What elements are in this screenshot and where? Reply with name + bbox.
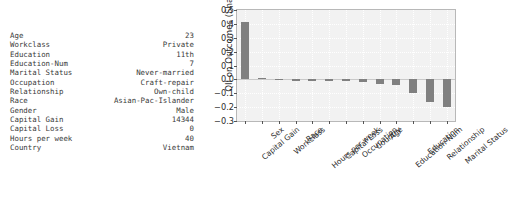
y-axis-tick-label: 0.2 xyxy=(221,47,234,57)
record-row: CountryVietnam xyxy=(10,143,194,152)
bar xyxy=(392,79,400,85)
record-table: Age23WorkclassPrivateEducation11thEducat… xyxy=(10,31,194,152)
record-value: 23 xyxy=(185,31,194,40)
gridline-vertical xyxy=(413,10,414,121)
x-axis-tick-mark xyxy=(363,121,364,124)
y-axis-tick-mark xyxy=(234,38,237,39)
record-value: Never-married xyxy=(136,68,194,77)
gridline-vertical xyxy=(396,10,397,121)
record-row: Capital Gain14344 xyxy=(10,115,194,124)
record-value: 40 xyxy=(185,134,194,143)
record-key: Workclass xyxy=(10,40,50,49)
record-row: GenderMale xyxy=(10,106,194,115)
gridline-vertical xyxy=(312,10,313,121)
bar xyxy=(409,79,417,92)
x-axis-tick-mark xyxy=(380,121,381,124)
y-axis-tick-mark xyxy=(234,93,237,94)
bar xyxy=(376,79,384,84)
record-value: 11th xyxy=(176,50,194,59)
record-value: Vietnam xyxy=(163,143,194,152)
y-axis-tick-label: −0.3 xyxy=(214,116,234,126)
gridline-vertical xyxy=(430,10,431,121)
gridline-vertical xyxy=(279,10,280,121)
bar xyxy=(342,79,350,80)
x-axis-tick-mark xyxy=(245,121,246,124)
bar xyxy=(359,79,367,81)
x-axis-tick-mark xyxy=(296,121,297,124)
record-value: Male xyxy=(176,106,194,115)
x-axis-tick-mark xyxy=(329,121,330,124)
record-key: Education-Num xyxy=(10,59,68,68)
record-key: Gender xyxy=(10,106,37,115)
x-axis-tick-mark xyxy=(396,121,397,124)
y-axis-tick-mark xyxy=(234,10,237,11)
record-row: Education-Num7 xyxy=(10,59,194,68)
bar xyxy=(308,79,316,80)
record-row: RelationshipOwn-child xyxy=(10,87,194,96)
y-axis-tick-label: 0.0 xyxy=(221,74,234,84)
record-key: Relationship xyxy=(10,87,63,96)
record-value: Private xyxy=(163,40,194,49)
y-axis-tick-label: 0.5 xyxy=(221,5,234,15)
gridline-vertical xyxy=(363,10,364,121)
record-value: Craft-repair xyxy=(141,78,194,87)
gridline-vertical xyxy=(262,10,263,121)
record-key: Capital Gain xyxy=(10,115,63,124)
x-axis-tick-mark xyxy=(346,121,347,124)
bar xyxy=(443,79,451,106)
bar xyxy=(325,79,333,80)
y-axis-tick-label: 0.1 xyxy=(221,61,234,71)
gridline-vertical xyxy=(296,10,297,121)
gridline-vertical xyxy=(329,10,330,121)
gridline-vertical xyxy=(346,10,347,121)
x-axis-tick-mark xyxy=(262,121,263,124)
bar xyxy=(258,78,266,80)
record-key: Marital Status xyxy=(10,68,72,77)
y-axis-tick-mark xyxy=(234,24,237,25)
y-axis-tick-label: −0.2 xyxy=(214,102,234,112)
record-value: Asian-Pac-Islander xyxy=(114,96,194,105)
record-row: Capital Loss0 xyxy=(10,124,194,133)
y-axis-tick-label: −0.1 xyxy=(214,88,234,98)
record-key: Age xyxy=(10,31,23,40)
bar xyxy=(426,79,434,102)
record-key: Race xyxy=(10,96,28,105)
record-row: WorkclassPrivate xyxy=(10,40,194,49)
x-axis-tick-mark xyxy=(430,121,431,124)
record-value: Own-child xyxy=(154,87,194,96)
y-axis-tick-label: 0.3 xyxy=(221,33,234,43)
x-axis-tick-mark xyxy=(413,121,414,124)
record-key: Occupation xyxy=(10,78,55,87)
plot-area: 0.50.40.30.20.10.0−0.1−0.2−0.3Capital Ga… xyxy=(236,9,456,122)
y-axis-tick-mark xyxy=(234,66,237,67)
x-axis-tick-mark xyxy=(447,121,448,124)
y-axis-tick-mark xyxy=(234,121,237,122)
y-axis-tick-label: 0.4 xyxy=(221,19,234,29)
record-value: 14344 xyxy=(172,115,194,124)
bar xyxy=(241,22,249,79)
record-value: 0 xyxy=(190,124,194,133)
record-key: Hours per week xyxy=(10,134,72,143)
bar xyxy=(292,79,300,80)
record-key: Capital Loss xyxy=(10,124,63,133)
record-row: RaceAsian-Pac-Islander xyxy=(10,96,194,105)
y-axis-tick-mark xyxy=(234,107,237,108)
record-key: Country xyxy=(10,143,41,152)
bar xyxy=(275,79,283,80)
plot-wrapper: 0.50.40.30.20.10.0−0.1−0.2−0.3Capital Ga… xyxy=(236,9,456,122)
qii-bar-chart: QII on Outcomes (Shapley) 0.50.40.30.20.… xyxy=(206,0,469,198)
x-axis-tick-mark xyxy=(312,121,313,124)
record-row: Age23 xyxy=(10,31,194,40)
record-value: 7 xyxy=(190,59,194,68)
x-axis-tick-mark xyxy=(279,121,280,124)
y-axis-tick-mark xyxy=(234,52,237,53)
gridline-vertical xyxy=(380,10,381,121)
record-row: Hours per week40 xyxy=(10,134,194,143)
record-key: Education xyxy=(10,50,50,59)
record-row: OccupationCraft-repair xyxy=(10,78,194,87)
record-row: Marital StatusNever-married xyxy=(10,68,194,77)
record-row: Education11th xyxy=(10,50,194,59)
